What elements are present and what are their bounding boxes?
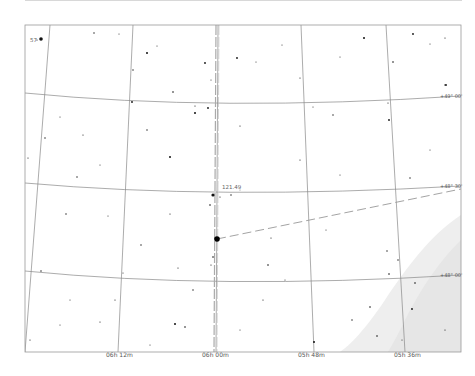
star-chart[interactable]: 121.49 57 +49° 00' +48° 30' +48° 00' 06h… bbox=[0, 0, 475, 376]
dec-grid-line-48-00 bbox=[25, 271, 461, 282]
dec-label-48-30: +48° 30' bbox=[440, 183, 462, 189]
ra-label-0600: 06h 00m bbox=[202, 351, 229, 358]
ra-label-0548: 05h 48m bbox=[298, 351, 325, 358]
ra-label-0536: 05h 36m bbox=[394, 351, 421, 358]
central-meridian-dashed bbox=[214, 25, 216, 352]
ra-grid-line-1 bbox=[25, 25, 50, 352]
dec-label-48-00: +48° 00' bbox=[440, 272, 462, 278]
dec-grid-line-49-00 bbox=[25, 93, 461, 103]
ra-grid-line-0612 bbox=[118, 25, 133, 352]
object-label: 121.49 bbox=[222, 184, 242, 190]
dec-label-49-00: +49° 00' bbox=[440, 93, 462, 99]
corner-star-label: 57 bbox=[30, 37, 37, 43]
ra-label-0612: 06h 12m bbox=[106, 351, 133, 358]
ra-grid-line-0548 bbox=[301, 25, 314, 352]
object-path-dashed bbox=[217, 189, 461, 239]
target-object-marker[interactable] bbox=[214, 236, 220, 242]
